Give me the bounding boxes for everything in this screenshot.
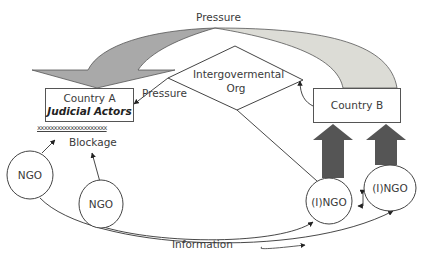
ngo-node-1: NGO [7, 165, 53, 185]
country-b-box: Country B [313, 88, 401, 123]
igo-label-line1: Intergovermental [193, 67, 279, 81]
information-small-arrow [261, 245, 305, 249]
ingo-to-country-b-arrow-2 [366, 124, 406, 165]
igo-label-line2: Org [193, 81, 279, 95]
igo-label: Intergovermental Org [193, 67, 279, 95]
country-a-subtitle: Judicial Actors [47, 105, 131, 118]
ingo-node-1: (I)NGO [306, 192, 352, 212]
country-a-box: Country A Judicial Actors [45, 88, 134, 122]
country-b-label: Country B [331, 99, 383, 112]
top-pressure-label: Pressure [196, 11, 241, 23]
igo-to-ingo-line [237, 110, 317, 181]
blockage-marker: xxxxxxxxxxxxxxxxxxxxx [37, 124, 107, 132]
pressure-label: Pressure [142, 87, 187, 99]
ingo-to-country-b-arrow-1 [313, 124, 353, 178]
ngo1-to-blockage-arrow [42, 140, 55, 153]
diagram-canvas [0, 0, 433, 266]
ngo2-to-blockage-arrow [92, 153, 100, 182]
ingo-node-2: (I)NGO [364, 178, 416, 198]
country-a-title: Country A [63, 92, 115, 105]
blockage-label: Blockage [69, 136, 117, 148]
ngo-node-2: NGO [79, 194, 123, 214]
country-b-to-igo-arrow [300, 81, 313, 106]
information-label: Information [172, 238, 233, 250]
